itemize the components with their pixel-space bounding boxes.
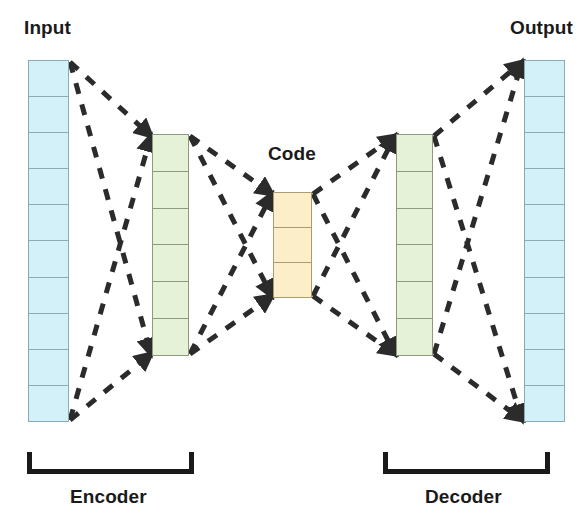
neuron-cell — [524, 240, 565, 276]
neuron-cell — [152, 281, 189, 318]
neuron-cell — [28, 204, 69, 240]
neuron-cell — [524, 277, 565, 313]
neuron-cell — [152, 244, 189, 281]
neuron-cell — [524, 60, 565, 96]
connection-arrow — [434, 62, 522, 354]
neuron-cell — [152, 318, 189, 356]
input-label: Input — [24, 17, 71, 39]
neuron-cell — [28, 385, 69, 422]
neuron-cell — [28, 60, 69, 96]
connection-arrow — [313, 296, 395, 354]
neuron-cell — [273, 262, 312, 298]
decoder-hidden-layer — [396, 134, 433, 356]
neuron-cell — [524, 96, 565, 132]
neuron-cell — [28, 96, 69, 132]
neuron-cell — [28, 240, 69, 276]
neuron-cell — [28, 277, 69, 313]
neuron-cell — [28, 132, 69, 168]
encoder-label: Encoder — [70, 486, 147, 508]
decoder-bracket — [383, 452, 550, 474]
connection-arrow — [70, 136, 151, 420]
neuron-cell — [524, 349, 565, 385]
neuron-cell — [152, 171, 189, 208]
encoder-hidden-layer — [152, 134, 189, 356]
neuron-cell — [396, 171, 433, 208]
autoencoder-diagram: Input Output Code Encoder Decoder — [0, 0, 584, 531]
neuron-cell — [396, 281, 433, 318]
input-layer — [28, 60, 69, 422]
neuron-cell — [28, 313, 69, 349]
connection-arrow — [434, 354, 522, 420]
decoder-label: Decoder — [425, 486, 502, 508]
connection-arrow — [70, 62, 151, 136]
neuron-cell — [152, 208, 189, 245]
neuron-cell — [524, 168, 565, 204]
neuron-cell — [396, 244, 433, 281]
neuron-cell — [28, 168, 69, 204]
connection-arrow — [313, 136, 395, 194]
neuron-cell — [524, 385, 565, 422]
connection-arrow — [434, 136, 522, 420]
code-label: Code — [268, 143, 316, 165]
neuron-cell — [396, 318, 433, 356]
output-layer — [524, 60, 565, 422]
connection-arrow — [70, 62, 151, 354]
neuron-cell — [28, 349, 69, 385]
neuron-cell — [396, 134, 433, 171]
output-label: Output — [510, 17, 573, 39]
neuron-cell — [524, 204, 565, 240]
encoder-bracket — [27, 452, 194, 474]
neuron-cell — [273, 192, 312, 227]
neuron-cell — [524, 313, 565, 349]
neuron-cell — [273, 227, 312, 262]
neuron-cell — [524, 132, 565, 168]
neuron-cell — [152, 134, 189, 171]
connection-arrow — [70, 354, 151, 420]
neuron-cell — [396, 208, 433, 245]
code-layer — [273, 192, 312, 298]
